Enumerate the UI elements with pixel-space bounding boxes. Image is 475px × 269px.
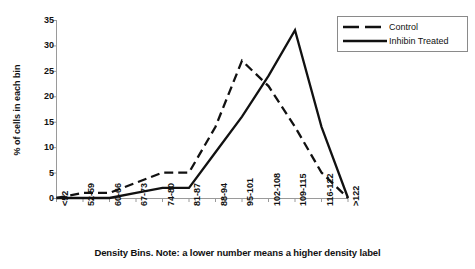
y-axis-tick-label: 20 <box>30 92 54 101</box>
y-axis-title: % of cells in each bin <box>10 45 24 175</box>
series-line-inhibin-treated <box>57 30 349 198</box>
legend-swatch-dashed-icon <box>342 21 388 33</box>
legend-label-control: Control <box>388 21 418 33</box>
y-axis-tick-labels: 05101520253035 <box>30 0 54 269</box>
legend-item-inhibin-treated: Inhibin Treated <box>342 34 463 48</box>
y-axis-tick-label: 25 <box>30 67 54 76</box>
chart-legend: Control Inhibin Treated <box>337 16 468 52</box>
y-axis-tick-label: 0 <box>30 194 54 203</box>
y-axis-tick-label: 30 <box>30 41 54 50</box>
x-axis-title: Density Bins. Note: a lower number means… <box>0 247 475 258</box>
legend-swatch-solid-icon <box>342 35 388 47</box>
y-axis-tick-label: 5 <box>30 169 54 178</box>
y-axis-tick-label: 10 <box>30 143 54 152</box>
y-axis-tick-label: 35 <box>30 16 54 25</box>
series-line-control <box>57 61 349 198</box>
chart-figure: % of cells in each bin 05101520253035 <5… <box>0 0 475 269</box>
y-axis-tick-label: 15 <box>30 118 54 127</box>
legend-item-control: Control <box>342 20 463 34</box>
legend-label-inhibin-treated: Inhibin Treated <box>388 35 449 47</box>
